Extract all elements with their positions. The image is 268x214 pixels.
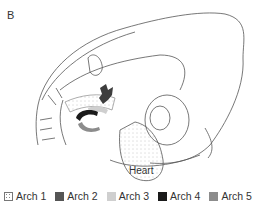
embryo-illustration: Heart: [0, 0, 268, 190]
arch-3-swatch: [107, 192, 116, 201]
legend-label: Arch 3: [119, 190, 149, 202]
legend-item-arch-2: Arch 2: [55, 190, 97, 202]
legend-label: Arch 4: [170, 190, 200, 202]
legend-item-arch-1: Arch 1: [4, 190, 46, 202]
legend-label: Arch 2: [67, 190, 97, 202]
legend-label: Arch 5: [221, 190, 251, 202]
legend: Arch 1 Arch 2 Arch 3 Arch 4 Arch 5: [4, 190, 261, 202]
arch-2-swatch: [55, 192, 64, 201]
legend-item-arch-5: Arch 5: [209, 190, 251, 202]
legend-item-arch-4: Arch 4: [158, 190, 200, 202]
legend-label: Arch 1: [16, 190, 46, 202]
arch-5-swatch: [209, 192, 218, 201]
arch-1-swatch: [4, 192, 13, 201]
legend-item-arch-3: Arch 3: [107, 190, 149, 202]
arch-4-swatch: [158, 192, 167, 201]
heart-label: Heart: [129, 165, 154, 176]
